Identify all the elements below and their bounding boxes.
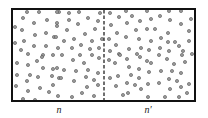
- particle: [22, 39, 25, 42]
- particle: [13, 41, 16, 44]
- particle: [62, 39, 65, 42]
- left-chamber-particles: [13, 10, 103, 101]
- particle: [86, 68, 89, 71]
- particle: [125, 81, 128, 84]
- particle: [149, 39, 152, 42]
- particle: [158, 46, 161, 49]
- particle: [147, 48, 150, 51]
- particle: [190, 52, 193, 55]
- particle: [26, 89, 29, 92]
- particle: [107, 58, 110, 61]
- particle: [109, 23, 112, 26]
- particle: [147, 70, 150, 73]
- particle: [33, 33, 36, 36]
- particle: [165, 57, 168, 60]
- particle: [70, 46, 73, 49]
- particle: [135, 52, 138, 55]
- particle: [179, 85, 182, 88]
- particle: [139, 87, 142, 90]
- particle: [26, 63, 29, 66]
- right-chamber-label-n-prime: n′: [144, 105, 151, 115]
- particle: [90, 53, 93, 56]
- particle: [93, 27, 96, 30]
- particle: [146, 82, 149, 85]
- particle: [51, 83, 54, 86]
- particle: [181, 49, 184, 52]
- particle: [127, 47, 130, 50]
- particle: [44, 44, 47, 47]
- particle: [117, 15, 120, 18]
- particle: [60, 53, 63, 56]
- particle: [146, 95, 149, 98]
- particle: [56, 46, 59, 49]
- particle: [70, 95, 73, 98]
- particle: [157, 53, 160, 56]
- particle: [35, 59, 38, 62]
- particle: [180, 53, 183, 56]
- particle: [172, 62, 175, 65]
- particle: [153, 27, 156, 30]
- particle: [13, 25, 16, 28]
- particle: [130, 14, 133, 17]
- particle: [96, 19, 99, 22]
- particle: [62, 68, 65, 71]
- particle: [114, 84, 117, 87]
- particle: [189, 17, 192, 20]
- particle: [158, 14, 161, 17]
- particle: [85, 85, 88, 88]
- particle: [116, 74, 119, 77]
- left-chamber-label-n: n: [57, 105, 62, 115]
- particle: [149, 61, 152, 64]
- particle: [108, 49, 111, 52]
- particle: [108, 76, 111, 79]
- particle: [97, 56, 100, 59]
- particle: [173, 40, 176, 43]
- particle: [15, 61, 18, 64]
- particle: [139, 46, 142, 49]
- particle: [55, 21, 58, 24]
- particle: [98, 11, 101, 14]
- particle: [127, 65, 130, 68]
- particle: [134, 28, 137, 31]
- particle: [187, 82, 190, 85]
- particle: [25, 10, 28, 13]
- particle: [167, 77, 170, 80]
- particle: [145, 59, 148, 62]
- particle: [126, 91, 129, 94]
- particle: [90, 39, 93, 42]
- particle: [67, 18, 70, 21]
- particle: [125, 57, 128, 60]
- particle: [78, 53, 81, 56]
- particle: [149, 17, 152, 20]
- particle: [107, 37, 110, 40]
- particle: [79, 43, 82, 46]
- particle: [167, 49, 170, 52]
- particle: [179, 22, 182, 25]
- particle: [118, 53, 121, 56]
- particle: [175, 79, 178, 82]
- particle: [55, 66, 58, 69]
- particle: [159, 36, 162, 39]
- particle: [32, 21, 35, 24]
- particle: [137, 67, 140, 70]
- particle: [108, 11, 111, 14]
- particle: [92, 94, 95, 97]
- particle: [32, 44, 35, 47]
- particle: [67, 11, 70, 14]
- particle: [21, 16, 24, 19]
- particle: [183, 60, 186, 63]
- particle: [97, 46, 100, 49]
- particle: [113, 61, 116, 64]
- particle: [54, 35, 57, 38]
- particle: [15, 73, 18, 76]
- particle: [83, 32, 86, 35]
- particle: [166, 40, 169, 43]
- particle: [80, 91, 83, 94]
- particle: [19, 48, 22, 51]
- particle: [86, 16, 89, 19]
- particle: [179, 71, 182, 74]
- particle: [72, 79, 75, 82]
- particle: [114, 43, 117, 46]
- particle: [56, 94, 59, 97]
- particle: [77, 10, 80, 13]
